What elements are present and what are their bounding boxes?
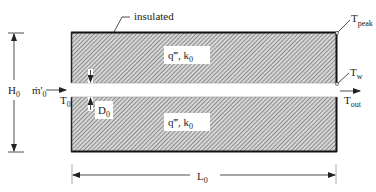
t-0-label: T0 — [60, 94, 71, 109]
t-w-label: Tw — [336, 66, 363, 86]
l-0-dimension: L0 — [72, 164, 336, 185]
top-plate-label: q‴, k0 — [164, 46, 210, 64]
svg-text:Tout: Tout — [344, 94, 362, 109]
svg-text:L0: L0 — [197, 170, 208, 185]
h-0-dimension: H0 — [8, 33, 24, 152]
svg-text:Tw: Tw — [350, 66, 363, 81]
svg-text:T0: T0 — [60, 94, 71, 109]
channel-diagram: q‴, k0 q‴, k0 insulated Tpeak Tw Tout ṁ'… — [0, 0, 376, 192]
t-peak-label: Tpeak — [336, 12, 373, 35]
svg-text:insulated: insulated — [134, 10, 174, 22]
insulated-label: insulated — [114, 10, 174, 32]
svg-text:ṁ'0: ṁ'0 — [32, 84, 47, 99]
bottom-plate-label: q‴, k0 — [164, 113, 210, 131]
svg-text:H0: H0 — [8, 84, 20, 99]
svg-text:Tpeak: Tpeak — [351, 12, 373, 28]
t-out-label: Tout — [340, 91, 362, 109]
